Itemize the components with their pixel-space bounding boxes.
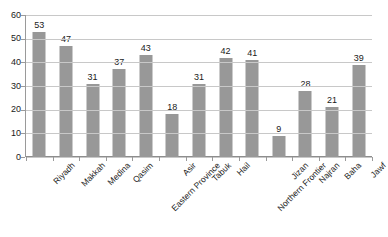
y-axis-tick-mark [21,86,25,87]
bar[interactable] [326,107,339,157]
bar[interactable] [246,60,259,157]
y-axis-tick-label: 10 [11,129,21,138]
bar[interactable] [113,69,126,157]
y-axis-tick-mark [21,62,25,63]
bar[interactable] [299,91,312,157]
bar-value-label: 43 [141,44,151,53]
x-axis-tick-label: Makkah [80,161,107,188]
y-axis-tick-label: 50 [11,34,21,43]
x-axis-tick-label: Baha [343,161,363,181]
y-axis-tick-label: 60 [11,11,21,20]
bar[interactable] [139,55,152,157]
bar-value-label: 53 [34,21,44,30]
bar[interactable] [352,65,365,157]
x-axis-tick-label: Riyadh [52,161,77,186]
x-axis-tick-label: Medina [106,161,132,187]
gridline [26,39,372,40]
gridline [26,133,372,134]
bar-value-label: 42 [221,47,231,56]
bar[interactable] [219,58,232,157]
plot-area: 5347313743183142419282139 [26,15,372,157]
y-axis-tick-label: 40 [11,58,21,67]
bar-value-label: 41 [247,49,257,58]
y-axis-tick-mark [21,39,25,40]
gridline [26,86,372,87]
x-axis-tick-label: Qasim [131,161,155,185]
y-axis-tick-mark [21,110,25,111]
x-axis-tick-label: Asir [182,161,199,178]
gridline [26,62,372,63]
x-axis-tick-mark [372,157,373,161]
y-axis-tick-label: 20 [11,105,21,114]
y-axis: 0102030405060 [0,0,24,160]
bar-value-label: 21 [327,96,337,105]
gridline [26,110,372,111]
gridline [26,15,372,16]
y-axis-tick-mark [21,157,25,158]
x-axis-tick-label: Hail [235,161,252,178]
bar[interactable] [166,114,179,157]
bar-value-label: 28 [300,80,310,89]
bar-value-label: 18 [167,103,177,112]
y-axis-tick-mark [21,133,25,134]
bar[interactable] [272,136,285,157]
y-axis-tick-label: 30 [11,82,21,91]
bar[interactable] [33,32,46,157]
bar-value-label: 31 [88,73,98,82]
bar[interactable] [192,84,205,157]
x-axis-labels: RiyadhMakkahMedinaQasimEastern ProvinceA… [26,161,372,237]
x-axis-tick-label: Jawf [369,161,388,180]
bar-value-label: 31 [194,73,204,82]
y-axis-tick-mark [21,15,25,16]
bar[interactable] [86,84,99,157]
